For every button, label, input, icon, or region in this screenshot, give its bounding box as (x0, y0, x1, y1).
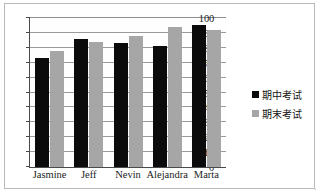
bar (153, 46, 167, 167)
bar (168, 27, 182, 167)
x-tick-label: Alejandra (146, 169, 187, 180)
bar (129, 36, 143, 167)
bar (35, 58, 49, 167)
bar (89, 42, 103, 167)
bar (50, 51, 64, 167)
gray-square-swatch (252, 110, 259, 117)
bars-layer (30, 18, 226, 167)
plot-area: 0102030405060708090100 (30, 18, 226, 167)
black-square-swatch (252, 91, 259, 98)
bar (74, 39, 88, 167)
legend-item-midterm[interactable]: 期中考试 (252, 87, 302, 102)
bar (114, 43, 128, 167)
x-tick-label: Nevin (115, 169, 141, 180)
bar (207, 30, 221, 167)
legend-item-label: 期中考试 (262, 87, 302, 102)
x-axis-labels: JasmineJeffNevinAlejandraMarta (30, 168, 226, 186)
chart-legend: 期中考试 期末考试 (252, 87, 302, 121)
x-tick-label: Jasmine (33, 169, 67, 180)
chart-frame: 0102030405060708090100 JasmineJeffNevinA… (4, 3, 315, 189)
x-tick-label: Jeff (81, 169, 97, 180)
legend-item-label: 期末考试 (262, 106, 302, 121)
x-tick-label: Marta (194, 169, 219, 180)
legend-item-final[interactable]: 期末考试 (252, 106, 302, 121)
bar (192, 25, 206, 167)
